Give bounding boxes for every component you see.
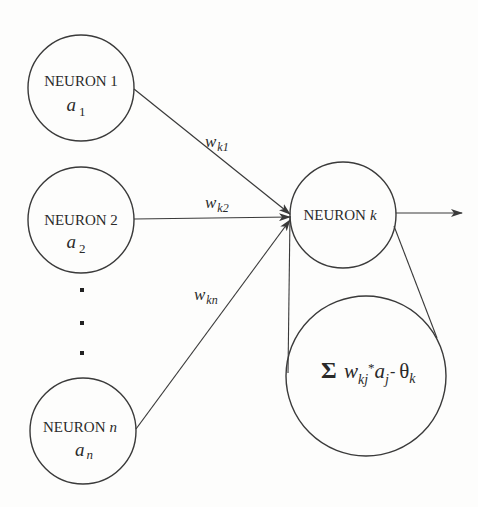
- detail-connector-lines: [288, 216, 437, 373]
- ellipsis-dot: [80, 288, 84, 292]
- connection-w-kn: [136, 220, 290, 429]
- neuron-1-activation: a1: [67, 94, 86, 119]
- ellipsis-dots: [80, 288, 84, 355]
- ellipsis-dot: [80, 321, 84, 325]
- detail-connector-right: [394, 226, 437, 338]
- ellipsis-dot: [80, 351, 84, 355]
- connection-w-k2: [134, 217, 290, 219]
- neuron-k-node: NEURONk: [290, 162, 396, 268]
- summation-detail-node: Σ wkj*aj-θk: [286, 296, 446, 456]
- weight-label-k2: wk2: [205, 193, 229, 215]
- weight-label-kn: wkn: [194, 285, 218, 307]
- weight-label-k1: wk1: [205, 132, 229, 154]
- neuron-2-label: NEURON 2: [44, 212, 118, 228]
- detail-connector-left: [288, 216, 290, 373]
- weighted-connections: wk1 wk2 wkn: [134, 89, 290, 429]
- neuron-2-activation: a2: [67, 231, 86, 256]
- neural-network-diagram: NEURON 1 a1 NEURON 2 a2 NEURONn an wk1: [0, 0, 478, 507]
- neuron-2-node: NEURON 2 a2: [28, 167, 134, 273]
- neuron-1-node: NEURON 1 a1: [28, 35, 134, 141]
- summation-formula: Σ wkj*aj-θk: [321, 357, 416, 387]
- neuron-k-label: NEURONk: [303, 207, 377, 223]
- neuron-n-label: NEURONn: [43, 419, 117, 435]
- neuron-n-activation: an: [75, 439, 93, 462]
- neuron-n-node: NEURONn an: [30, 378, 136, 484]
- neuron-1-label: NEURON 1: [44, 73, 118, 89]
